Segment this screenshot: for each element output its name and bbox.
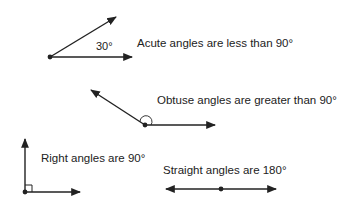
obtuse-angle-label: Obtuse angles are greater than 90°	[157, 94, 337, 106]
obtuse-vertex-dot	[143, 123, 148, 128]
acute-angle-figure: 30°	[48, 17, 132, 59]
angle-types-diagram: 30° Acute angles are less than 90° Obtus…	[0, 0, 350, 212]
acute-angle-label: Acute angles are less than 90°	[137, 37, 293, 49]
acute-measure-label: 30°	[96, 40, 113, 52]
obtuse-upper-ray	[91, 90, 145, 125]
straight-angle-figure	[166, 187, 276, 192]
right-angle-label: Right angles are 90°	[41, 152, 145, 164]
acute-vertex-dot	[48, 55, 53, 60]
straight-vertex-dot	[219, 187, 224, 192]
right-vertex-dot	[23, 190, 28, 195]
straight-angle-label: Straight angles are 180°	[163, 164, 287, 176]
right-angle-figure	[23, 139, 80, 194]
